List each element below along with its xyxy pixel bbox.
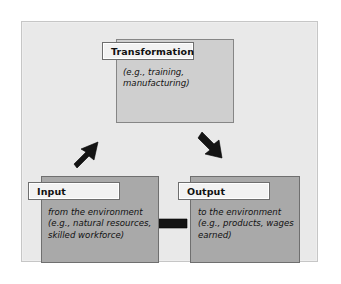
node-input-body: from the environment (e.g., natural reso… [48, 207, 156, 241]
node-output-body: to the environment (e.g., products, wage… [198, 207, 300, 241]
arrow-input-to-transformation [74, 142, 98, 168]
node-transformation-label: Transformation [102, 42, 194, 60]
node-output-label: Output [178, 182, 270, 200]
diagram-panel: Transformation (e.g., training, manufact… [21, 21, 318, 262]
node-input-label: Input [28, 182, 120, 200]
arrow-transformation-to-output [198, 132, 222, 158]
node-transformation-body: (e.g., training, manufacturing) [123, 67, 223, 90]
diagram-canvas: Transformation (e.g., training, manufact… [0, 0, 341, 284]
